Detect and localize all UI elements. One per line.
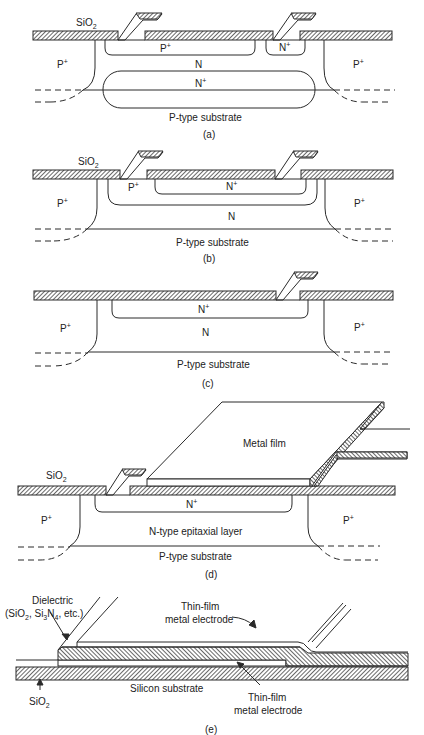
svg-text:Thin-film: Thin-film (181, 601, 219, 612)
svg-text:P-type substrate: P-type substrate (176, 237, 249, 248)
panel-c-labels: N+ P+ P+ N P-type substrate (c) (60, 303, 365, 389)
svg-text:P+: P+ (160, 42, 171, 54)
svg-text:N: N (228, 211, 235, 222)
svg-text:P-type substrate: P-type substrate (159, 551, 232, 562)
svg-text:P+: P+ (343, 514, 354, 526)
isolation-wall-right (324, 40, 334, 90)
svg-text:P+: P+ (128, 181, 139, 193)
svg-text:(a): (a) (203, 129, 215, 140)
isolation-wall-left (83, 40, 95, 90)
svg-text:P+: P+ (354, 321, 365, 333)
svg-text:SiO2: SiO2 (46, 470, 67, 483)
svg-text:SiO2: SiO2 (76, 17, 97, 30)
svg-text:(d): (d) (205, 569, 217, 580)
p-plus-well (105, 40, 255, 55)
panel-c (34, 272, 393, 366)
svg-text:P+: P+ (354, 197, 365, 209)
svg-text:N: N (202, 327, 209, 338)
svg-text:P+: P+ (353, 58, 364, 70)
svg-text:P-type substrate: P-type substrate (177, 359, 250, 370)
svg-text:P+: P+ (60, 322, 71, 334)
svg-text:metal electrode: metal electrode (234, 705, 303, 716)
svg-text:P+: P+ (57, 58, 68, 70)
svg-text:Metal film: Metal film (243, 438, 286, 449)
svg-text:N+: N+ (195, 77, 206, 89)
svg-text:SiO2: SiO2 (78, 156, 99, 169)
svg-text:Silicon substrate: Silicon substrate (130, 683, 204, 694)
svg-text:N+: N+ (226, 180, 237, 192)
n-plus-region (112, 300, 308, 318)
oxide-layer (33, 31, 118, 40)
svg-text:(c): (c) (202, 378, 214, 389)
svg-text:Dielectric: Dielectric (32, 595, 73, 606)
svg-text:(b): (b) (203, 253, 215, 264)
p-plus-well (108, 179, 317, 205)
svg-text:P-type substrate: P-type substrate (169, 112, 242, 123)
svg-text:N: N (195, 59, 202, 70)
ic-fabrication-figure: SiO2 P+ N+ P+ P+ N N+ P-type substrate (… (0, 0, 424, 735)
svg-text:N+: N+ (198, 303, 209, 315)
silicon-substrate (16, 667, 408, 680)
svg-text:N-type epitaxial layer: N-type epitaxial layer (149, 526, 243, 537)
svg-text:P+: P+ (41, 514, 52, 526)
svg-text:metal electrode: metal electrode (165, 614, 234, 625)
svg-text:(e): (e) (205, 724, 217, 735)
svg-text:Thin-film: Thin-film (248, 692, 286, 703)
svg-text:N+: N+ (186, 498, 197, 510)
svg-text:(SiO2, Si3N4, etc.): (SiO2, Si3N4, etc.) (5, 608, 83, 621)
svg-text:SiO2: SiO2 (29, 696, 50, 709)
svg-text:N+: N+ (279, 41, 290, 53)
bottom-electrode (58, 660, 286, 666)
svg-text:P+: P+ (57, 197, 68, 209)
